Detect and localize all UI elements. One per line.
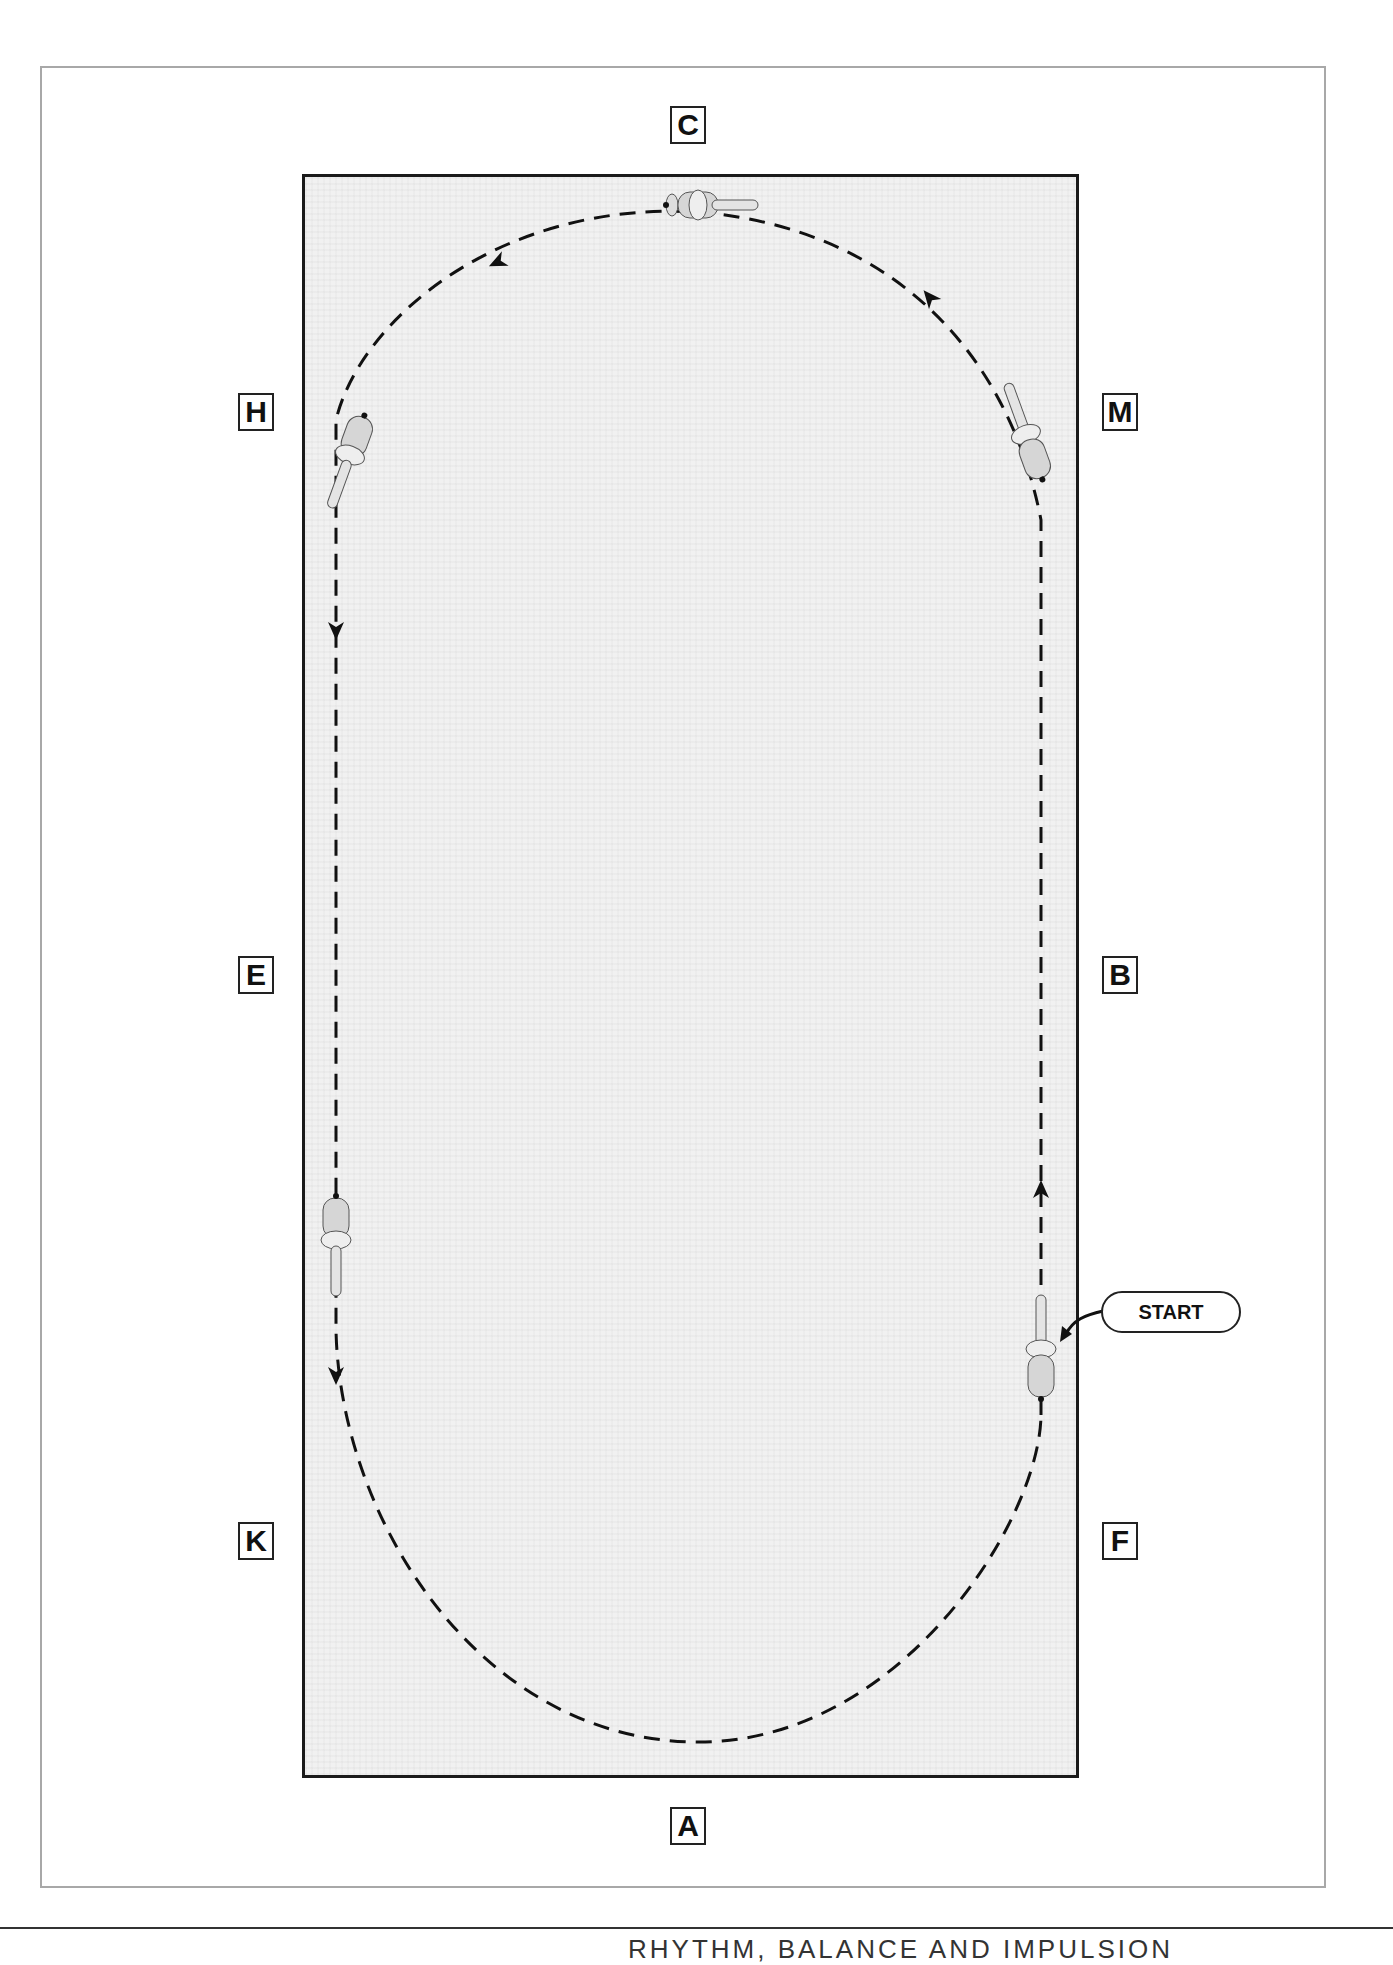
marker-label: F <box>1111 1524 1129 1558</box>
marker-f: F <box>1102 1522 1138 1560</box>
horse-rider-icon <box>321 1193 351 1296</box>
start-label: START <box>1101 1291 1241 1333</box>
marker-label: A <box>677 1809 699 1843</box>
horse-rider-icon <box>317 408 380 513</box>
start-pointer-arrow <box>1066 1311 1103 1334</box>
running-head: RHYTHM, BALANCE AND IMPULSION <box>628 1934 1173 1965</box>
marker-label: C <box>677 108 699 142</box>
marker-h: H <box>238 393 274 431</box>
arrow-icon <box>486 251 509 273</box>
footer-rule <box>0 1927 1393 1929</box>
marker-b: B <box>1102 956 1138 994</box>
marker-label: B <box>1109 958 1131 992</box>
riding-path <box>336 211 1041 1742</box>
marker-m: M <box>1102 393 1138 431</box>
marker-c: C <box>670 106 706 144</box>
marker-a: A <box>670 1807 706 1845</box>
marker-label: E <box>246 958 266 992</box>
marker-e: E <box>238 956 274 994</box>
arrow-icon <box>328 622 344 640</box>
marker-label: H <box>245 395 267 429</box>
horse-rider-icon <box>663 190 758 220</box>
marker-label: M <box>1108 395 1133 429</box>
arrow-icon <box>328 1367 344 1385</box>
horse-rider-icon <box>993 378 1057 487</box>
marker-k: K <box>238 1522 274 1560</box>
arrow-icon <box>917 285 941 309</box>
horse-rider-icon <box>1026 1295 1056 1402</box>
marker-label: K <box>245 1524 267 1558</box>
